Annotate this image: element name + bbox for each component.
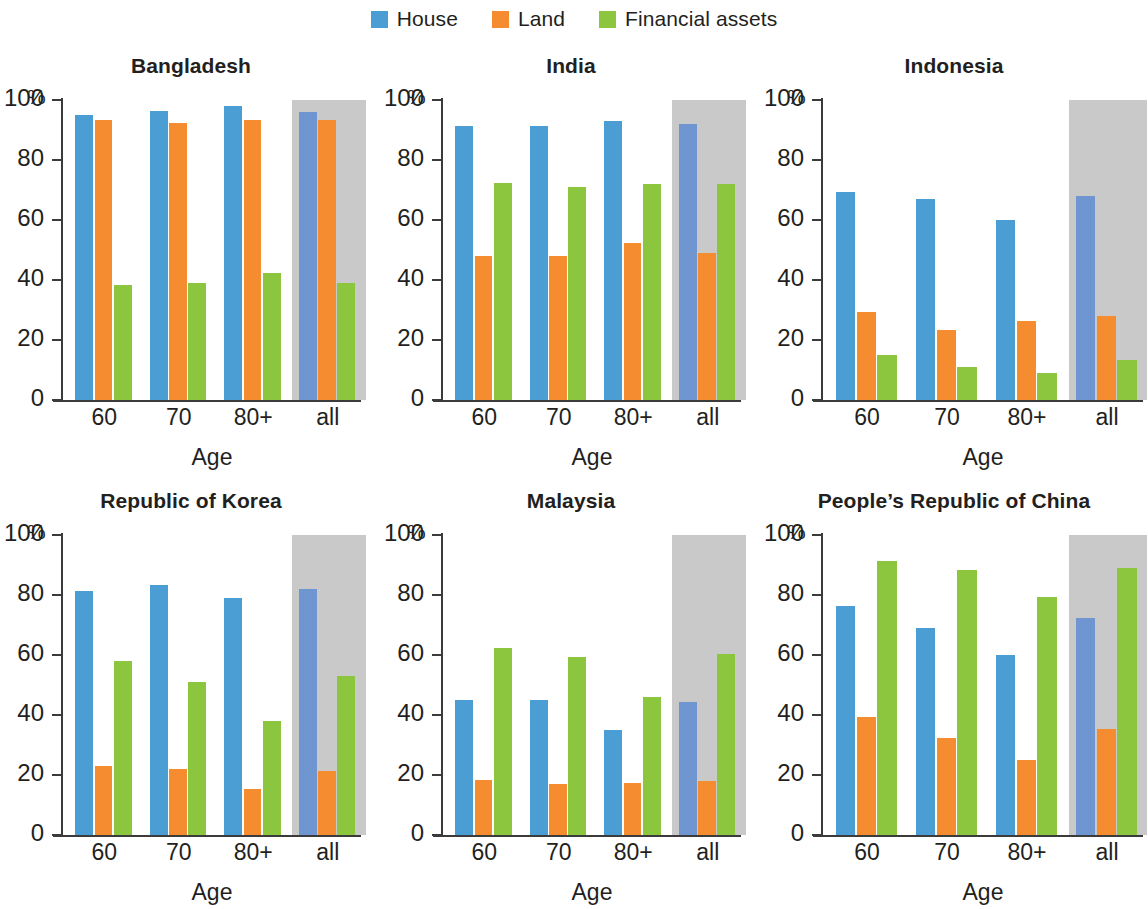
x-axis-tick-label: 60 [836, 404, 898, 431]
bar-house [836, 606, 855, 836]
bar-financial-assets [337, 283, 355, 400]
bars-container [916, 535, 978, 835]
y-axis-tick: 80 [812, 159, 821, 161]
bar-house [455, 700, 473, 835]
x-axis-tick-label: 70 [916, 404, 978, 431]
plot-area: 020406080100607080+all [443, 535, 741, 835]
bar-financial-assets [188, 682, 206, 835]
bar-financial-assets [957, 367, 976, 400]
bar-financial-assets [568, 657, 586, 836]
x-axis-title: Age [823, 879, 1143, 906]
x-axis-tick-label: all [679, 839, 737, 866]
bars-container [679, 535, 737, 835]
y-axis-tick-label: 100 [384, 520, 424, 546]
bar-house [299, 589, 317, 835]
y-axis-tick: 0 [812, 834, 821, 836]
bars-container [604, 100, 662, 400]
y-axis-tick: 0 [52, 399, 61, 401]
chart-panel: Republic of Korea%020406080100607080+all… [0, 487, 382, 909]
bar-group: 60 [75, 535, 133, 835]
y-axis-tick: 0 [812, 399, 821, 401]
bar-land [244, 789, 262, 836]
plot-area: 020406080100607080+all [63, 100, 361, 400]
bar-land [318, 771, 336, 836]
y-axis-tick: 20 [812, 774, 821, 776]
y-axis-tick-label: 100 [384, 85, 424, 111]
legend-label: Financial assets [625, 7, 777, 31]
y-axis-tick: 80 [432, 159, 441, 161]
y-axis-tick-label: 20 [397, 760, 424, 786]
y-axis-tick: 20 [52, 339, 61, 341]
y-axis-tick-label: 100 [764, 85, 804, 111]
x-axis-tick-label: 70 [150, 404, 208, 431]
y-axis-tick-label: 40 [777, 265, 804, 291]
y-axis-line [61, 98, 63, 402]
bar-house [679, 124, 697, 400]
chart-panel: India%020406080100607080+allAge [380, 52, 762, 478]
bar-group: all [299, 535, 357, 835]
y-axis-tick-label: 100 [4, 85, 44, 111]
bar-group: all [1076, 535, 1138, 835]
y-axis-line [441, 533, 443, 837]
bar-financial-assets [188, 283, 206, 400]
y-axis-tick-label: 0 [31, 820, 44, 846]
x-axis-line [813, 400, 1143, 402]
bar-group: 60 [836, 100, 898, 400]
bar-house [224, 598, 242, 835]
bar-group: 80+ [996, 535, 1058, 835]
bar-house [1076, 618, 1095, 836]
chart-legend: HouseLandFinancial assets [0, 4, 1148, 34]
bar-group: all [299, 100, 357, 400]
y-axis-tick: 0 [432, 834, 441, 836]
plot-area: 020406080100607080+all [823, 535, 1143, 835]
y-axis-tick: 80 [812, 594, 821, 596]
bars-container [299, 100, 357, 400]
y-axis-tick: 80 [52, 594, 61, 596]
bar-financial-assets [263, 273, 281, 401]
y-axis-tick-label: 40 [777, 700, 804, 726]
bar-group: all [679, 100, 737, 400]
y-axis-tick-label: 0 [791, 385, 804, 411]
x-axis-tick-label: all [299, 839, 357, 866]
x-axis-tick-label: 60 [75, 839, 133, 866]
y-axis-tick-label: 60 [777, 640, 804, 666]
bar-house [150, 111, 168, 401]
y-axis-tick: 40 [432, 279, 441, 281]
bars-container [150, 100, 208, 400]
x-axis-line [433, 835, 741, 837]
bars-container [299, 535, 357, 835]
y-axis-tick: 0 [52, 834, 61, 836]
bar-land [1097, 729, 1116, 836]
bar-land [698, 253, 716, 400]
bar-group: 70 [916, 535, 978, 835]
x-axis-title: Age [63, 444, 361, 471]
x-axis-title: Age [823, 444, 1143, 471]
y-axis-line [61, 533, 63, 837]
x-axis-line [813, 835, 1143, 837]
bars-container [1076, 100, 1138, 400]
bar-group: 80+ [224, 100, 282, 400]
x-axis-tick-label: 60 [75, 404, 133, 431]
bar-house [996, 655, 1015, 835]
y-axis-tick: 100 [52, 99, 61, 101]
bar-financial-assets [263, 721, 281, 835]
y-axis-tick: 100 [812, 99, 821, 101]
x-axis-line [53, 400, 361, 402]
bars-container [75, 535, 133, 835]
x-axis-tick-label: 80+ [224, 839, 282, 866]
y-axis-tick-label: 40 [397, 265, 424, 291]
y-axis-tick: 100 [812, 534, 821, 536]
legend-entry: Financial assets [599, 7, 777, 31]
y-axis-tick-label: 100 [4, 520, 44, 546]
bar-group: 70 [150, 535, 208, 835]
bar-house [150, 585, 168, 836]
x-axis-tick-label: 70 [916, 839, 978, 866]
bar-house [530, 126, 548, 401]
x-axis-tick-label: all [1076, 404, 1138, 431]
y-axis-tick-label: 80 [17, 145, 44, 171]
bar-land [937, 330, 956, 401]
bar-land [1097, 316, 1116, 400]
y-axis-tick-label: 80 [397, 580, 424, 606]
plot-area: 020406080100607080+all [823, 100, 1143, 400]
x-axis-tick-label: all [1076, 839, 1138, 866]
